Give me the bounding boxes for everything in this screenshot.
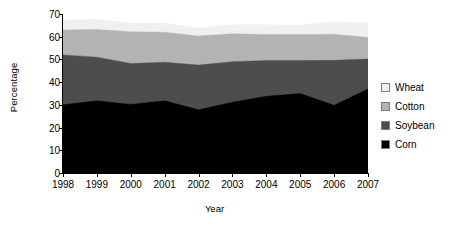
- x-axis-tick-label: 2007: [357, 179, 379, 190]
- y-axis-tick-mark: [59, 82, 63, 83]
- stacked-area-chart: Percentage 010203040506070 1998199920002…: [0, 0, 457, 228]
- x-axis-tick-mark: [232, 173, 233, 177]
- x-axis-tick-label: 2001: [154, 179, 176, 190]
- x-axis-tick-label: 1998: [52, 179, 74, 190]
- plot-surface: [63, 14, 368, 173]
- x-axis-tick-mark: [266, 173, 267, 177]
- x-axis-tick-label: 2000: [120, 179, 142, 190]
- x-axis-tick-mark: [97, 173, 98, 177]
- x-axis-title-text: Year: [205, 203, 224, 214]
- legend-swatch-icon: [381, 140, 390, 149]
- legend-item-soybean[interactable]: Soybean: [381, 116, 455, 135]
- x-axis-tick-label: 2004: [255, 179, 277, 190]
- y-axis-tick-mark: [59, 37, 63, 38]
- legend-swatch-icon: [381, 83, 390, 92]
- legend-swatch-icon: [381, 121, 390, 130]
- legend-swatch-icon: [381, 102, 390, 111]
- chart-legend: WheatCottonSoybeanCorn: [381, 78, 455, 154]
- x-axis-tick-mark: [199, 173, 200, 177]
- x-axis-title: Year: [62, 203, 367, 214]
- y-axis-tick-mark: [59, 14, 63, 15]
- y-axis-tick-mark: [59, 105, 63, 106]
- x-axis-tick-mark: [63, 173, 64, 177]
- x-axis-tick-label: 2003: [221, 179, 243, 190]
- legend-label: Cotton: [395, 101, 424, 112]
- x-axis-tick-mark: [131, 173, 132, 177]
- legend-item-corn[interactable]: Corn: [381, 135, 455, 154]
- y-axis-tick-mark: [59, 150, 63, 151]
- legend-item-cotton[interactable]: Cotton: [381, 97, 455, 116]
- y-axis-tick-mark: [59, 128, 63, 129]
- y-axis-tick-mark: [59, 59, 63, 60]
- x-axis-tick-label: 2002: [187, 179, 209, 190]
- area-series-group: [63, 14, 368, 173]
- y-axis-title: Percentage: [4, 0, 24, 175]
- x-axis-tick-mark: [368, 173, 369, 177]
- x-axis-tick-label: 2006: [323, 179, 345, 190]
- legend-item-wheat[interactable]: Wheat: [381, 78, 455, 97]
- legend-label: Wheat: [395, 82, 424, 93]
- plot-area: 010203040506070 199819992000200120022003…: [62, 14, 368, 174]
- x-axis-tick-label: 2005: [289, 179, 311, 190]
- legend-label: Corn: [395, 139, 417, 150]
- legend-label: Soybean: [395, 120, 434, 131]
- x-axis-tick-mark: [334, 173, 335, 177]
- x-axis-tick-mark: [165, 173, 166, 177]
- x-axis-tick-mark: [300, 173, 301, 177]
- x-axis-tick-label: 1999: [86, 179, 108, 190]
- y-axis-title-text: Percentage: [9, 63, 20, 113]
